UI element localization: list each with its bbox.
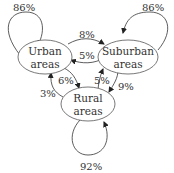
label-suburban-rural: 9%	[118, 81, 134, 92]
edge-suburban-rural	[109, 70, 118, 92]
node-suburban-label-1: Suburban	[102, 45, 154, 57]
label-urban-self: 86%	[13, 2, 35, 13]
node-rural: Rural areas	[61, 87, 115, 121]
markov-diagram: Urban areas Suburban areas Rural areas 8…	[0, 0, 174, 173]
label-rural-suburban: 5%	[94, 75, 110, 86]
node-rural-label-1: Rural	[73, 92, 103, 104]
node-urban: Urban areas	[18, 40, 72, 74]
label-rural-self: 92%	[80, 161, 102, 172]
label-rural-urban: 3%	[40, 88, 56, 99]
node-suburban: Suburban areas	[98, 40, 158, 74]
node-urban-label-1: Urban	[28, 45, 62, 57]
label-urban-suburban: 8%	[79, 29, 95, 40]
node-suburban-label-2: areas	[113, 58, 142, 70]
node-rural-label-2: areas	[73, 105, 102, 117]
node-urban-label-2: areas	[30, 58, 59, 70]
label-urban-rural: 6%	[58, 75, 74, 86]
label-suburban-self: 86%	[142, 2, 164, 13]
label-suburban-urban: 5%	[79, 50, 95, 61]
edge-rural-self	[72, 120, 107, 155]
